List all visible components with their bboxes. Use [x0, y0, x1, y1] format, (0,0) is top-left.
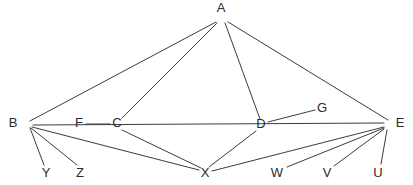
- graph-edge-d-g: [268, 110, 315, 122]
- graph-node-label-b[interactable]: B: [9, 115, 18, 130]
- graph-edge-u-e: [381, 130, 387, 164]
- graph-node-label-x[interactable]: X: [201, 165, 210, 180]
- graph-edge-a-b: [30, 22, 216, 121]
- graph-edge-c-x: [122, 130, 201, 168]
- graph-node-label-d[interactable]: D: [256, 116, 265, 131]
- graph-node-label-f[interactable]: F: [75, 115, 83, 130]
- graph-svg: ABCDEFGXYZWVU: [0, 0, 413, 185]
- graph-edge-b-z: [31, 128, 77, 165]
- graph-diagram-canvas: ABCDEFGXYZWVU: [0, 0, 413, 185]
- graph-node-label-g[interactable]: G: [317, 100, 327, 115]
- graph-edge-x-e: [212, 127, 384, 171]
- graph-node-label-u[interactable]: U: [373, 165, 382, 180]
- graph-edge-b-y: [30, 128, 44, 165]
- graph-node-label-w[interactable]: W: [271, 165, 284, 180]
- graph-node-label-y[interactable]: Y: [42, 165, 51, 180]
- graph-node-label-c[interactable]: C: [112, 115, 121, 130]
- graph-edge-a-c: [122, 23, 217, 118]
- edges-layer: [30, 22, 388, 171]
- graph-edge-a-e: [228, 22, 388, 120]
- graph-node-label-a[interactable]: A: [217, 0, 226, 15]
- graph-edge-v-e: [334, 129, 384, 166]
- graph-node-label-e[interactable]: E: [396, 115, 405, 130]
- graph-edge-a-d: [225, 23, 260, 119]
- graph-node-label-z[interactable]: Z: [76, 165, 84, 180]
- graph-node-label-v[interactable]: V: [323, 165, 332, 180]
- graph-edge-w-e: [287, 128, 384, 167]
